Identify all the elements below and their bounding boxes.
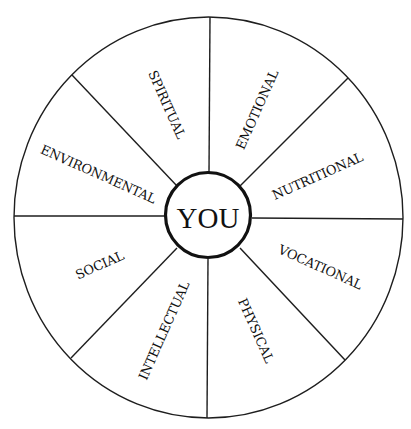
- center-label: YOU: [177, 202, 240, 234]
- segment-label-physical: PHYSICAL: [235, 296, 277, 366]
- segment-label-spiritual: SPIRITUAL: [145, 68, 189, 141]
- spoke-bottom: [207, 259, 208, 418]
- segment-label-environmental: ENVIRONMENTAL: [38, 142, 159, 207]
- segment-label-emotional: EMOTIONAL: [233, 67, 282, 152]
- segment-label-nutritional: NUTRITIONAL: [270, 149, 366, 203]
- segment-label-intellectual: INTELLECTUAL: [136, 279, 193, 383]
- spoke-right: [252, 218, 403, 219]
- segment-label-vocational: VOCATIONAL: [275, 241, 365, 292]
- segment-label-social: SOCIAL: [73, 248, 127, 283]
- wellness-wheel-diagram: YOU SPIRITUAL EMOTIONAL NUTRITIONAL VOCA…: [0, 0, 411, 429]
- spoke-top: [209, 17, 210, 172]
